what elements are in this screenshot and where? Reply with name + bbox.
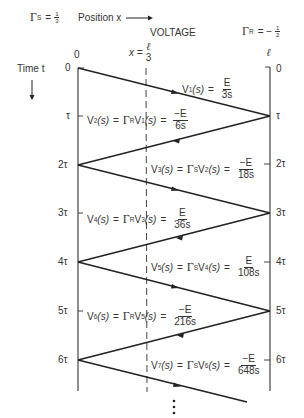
right-tick-5tau: 5τ [276,306,286,316]
continuation-dots [173,400,176,415]
right-tick-6tau: 6τ [276,355,286,365]
gamma-s-fraction: 13 [54,11,59,24]
wave-equation-2: V2(s) = ΓRV1(s) = −E6s [87,109,188,131]
equals: = [45,12,51,23]
marker-prefix: x = [129,47,143,58]
wave-equation-5: V5(s) = ΓSV4(s) = E108s [151,256,261,278]
wave-equation-3: V3(s) = ΓSV2(s) = −E18s [151,158,255,180]
right-tick-0: 0 [276,64,282,74]
position-label: Position x [78,13,121,23]
left-tick-5tau: 5τ [58,306,68,316]
right-tick-tau: τ [276,111,280,121]
left-tick-0: 0 [65,63,71,73]
right-ticks [264,164,270,360]
right-position-label: ℓ [267,48,270,58]
wave-equation-7: V7(s) = ΓSV6(s) = −E648s [151,354,261,376]
right-tick-4tau: 4τ [276,257,286,267]
gamma-symbol: Γ [30,10,37,25]
voltage-title: VOLTAGE [150,28,196,38]
wave-equation-4: V4(s) = ΓRV3(s) = E36s [87,208,191,230]
equals: = − [258,26,272,37]
right-tick-3tau: 3τ [276,208,286,218]
right-tick-2tau: 2τ [276,159,286,169]
gamma-symbol: Γ [242,24,249,39]
left-tick-2tau: 2τ [58,160,68,170]
gamma-r-label: ΓR = − 12 [242,24,280,39]
left-tick-tau: τ [66,111,70,121]
gamma-s-label: ΓS = 13 [30,10,59,25]
left-tick-3tau: 3τ [58,208,68,218]
marker-fraction: ℓ3 [145,42,153,63]
left-tick-6tau: 6τ [58,355,68,365]
marker-label: x = ℓ3 [129,42,152,63]
wave-equation-6: V6(s) = ΓRV5(s) = −E216s [87,305,197,327]
gamma-sub: R [249,28,254,35]
gamma-r-fraction: 12 [275,25,280,38]
wave-equation-1: V1(s) = E3s [182,78,233,100]
left-position-label: 0 [74,50,80,60]
left-tick-4tau: 4τ [58,257,68,267]
time-label: Time t [17,64,44,74]
gamma-sub: S [37,14,41,21]
left-ticks [78,68,84,311]
